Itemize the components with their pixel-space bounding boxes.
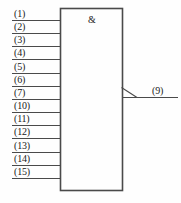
input-pin-label: (1) (14, 9, 25, 19)
input-pin-label: (12) (14, 127, 30, 137)
output-line-group (122, 88, 179, 98)
input-pin-label: (11) (14, 114, 30, 124)
input-pin-label: (5) (14, 62, 25, 72)
input-pin-label: (7) (14, 88, 25, 98)
input-pin-label: (2) (14, 22, 25, 32)
input-pin-label: (14) (14, 154, 30, 164)
input-pin-label: (4) (14, 48, 25, 58)
input-pin-label: (15) (14, 167, 30, 177)
input-pin-label: (13) (14, 141, 30, 151)
input-pin-label: (6) (14, 75, 25, 85)
output-pin-label: (9) (152, 86, 163, 96)
gate-body-group (61, 9, 123, 191)
gate-function-symbol: & (88, 15, 96, 25)
gate-body-rect (61, 9, 123, 191)
output-slash-marker (122, 88, 138, 98)
logic-gate-diagram: (1)(2)(3)(4)(5)(6)(7)(10)(11)(12)(13)(14… (0, 0, 181, 203)
input-pin-label: (3) (14, 35, 25, 45)
input-pin-label: (10) (14, 101, 30, 111)
